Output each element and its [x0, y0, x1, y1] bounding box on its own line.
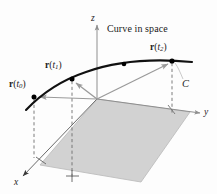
- vector-arrow-r-t2: [97, 64, 168, 99]
- vector-arrow-r-t0: [40, 97, 97, 99]
- z-axis-label: z: [91, 14, 95, 24]
- vector-label-r-t0-close: ): [22, 79, 25, 89]
- vector-curve-figure: Curve in space z y x r(t0) r(t1) r(t2) C: [0, 0, 217, 194]
- point-t0: [32, 95, 37, 100]
- point-t2: [169, 58, 174, 63]
- vector-label-r-t0: r(t0): [9, 80, 26, 90]
- vector-label-r-t2-close: ): [163, 42, 166, 52]
- curve-label-leader: [175, 63, 183, 79]
- figure-caption: Curve in space: [107, 24, 168, 34]
- vector-arrow-r-t1: [76, 83, 97, 99]
- point-mid: [122, 62, 127, 67]
- x-axis-label: x: [14, 178, 18, 188]
- y-axis-label: y: [204, 108, 208, 118]
- vector-label-r-t2: r(t2): [150, 43, 167, 53]
- point-t1: [70, 77, 75, 82]
- curve-name-label: C: [182, 79, 189, 90]
- xy-plane-shaded-region: [40, 99, 190, 182]
- vector-label-r-t1-close: ): [58, 60, 61, 70]
- vector-label-r-t1: r(t1): [45, 61, 62, 71]
